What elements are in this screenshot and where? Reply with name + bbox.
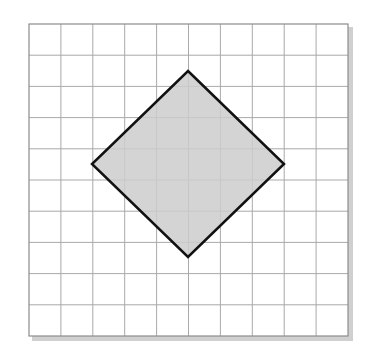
grid-diagram — [0, 0, 369, 349]
